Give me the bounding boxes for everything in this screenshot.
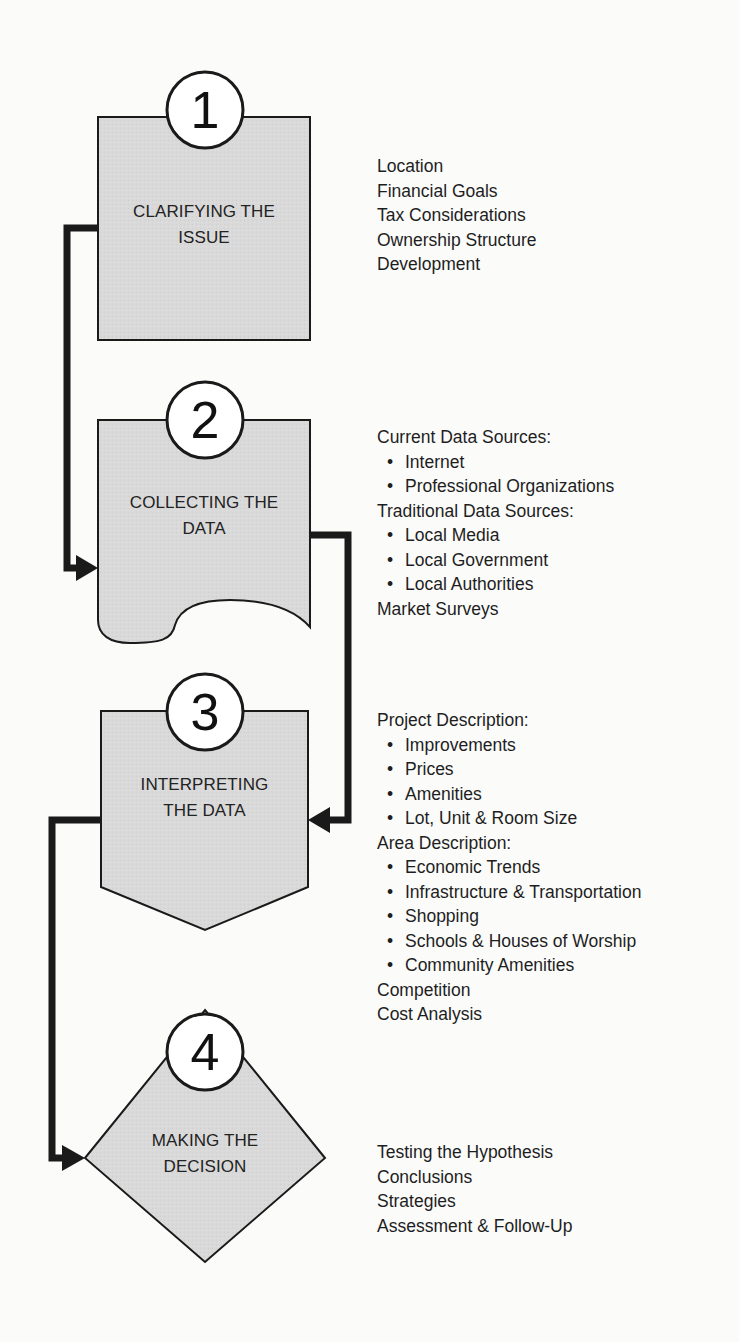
step3-number: 3 xyxy=(165,682,245,742)
note-text: Lot, Unit & Room Size xyxy=(405,808,577,828)
bullet-icon: • xyxy=(387,929,405,954)
step4-label-line1: MAKING THE xyxy=(105,1128,305,1154)
note-bullet-item: •Internet xyxy=(377,450,614,475)
step4-number: 4 xyxy=(165,1022,245,1082)
step1-label-line2: ISSUE xyxy=(98,225,310,251)
note-text: Professional Organizations xyxy=(405,476,614,496)
bullet-icon: • xyxy=(387,450,405,475)
step2-number: 2 xyxy=(165,390,245,450)
note-bullet-item: •Lot, Unit & Room Size xyxy=(377,806,641,831)
bullet-icon: • xyxy=(387,523,405,548)
step1-label: CLARIFYING THE ISSUE xyxy=(98,199,310,251)
note-text: Shopping xyxy=(405,906,479,926)
step4-notes: Testing the HypothesisConclusionsStrateg… xyxy=(377,1140,572,1238)
note-item: Competition xyxy=(377,978,641,1003)
bullet-icon: • xyxy=(387,757,405,782)
note-item: Testing the Hypothesis xyxy=(377,1140,572,1165)
note-item: Financial Goals xyxy=(377,179,537,204)
step3-label-line1: INTERPRETING xyxy=(101,772,308,798)
note-bullet-item: •Local Authorities xyxy=(377,572,614,597)
note-text: Schools & Houses of Worship xyxy=(405,931,636,951)
step2-label-line2: DATA xyxy=(98,516,310,542)
step4-label: MAKING THE DECISION xyxy=(105,1128,305,1180)
step2-label-line1: COLLECTING THE xyxy=(98,490,310,516)
step1-notes: LocationFinancial GoalsTax Consideration… xyxy=(377,154,537,277)
step3-label: INTERPRETING THE DATA xyxy=(101,772,308,824)
step2-label: COLLECTING THE DATA xyxy=(98,490,310,542)
arrowhead-icon xyxy=(76,555,98,581)
connector-step2-to-step3 xyxy=(308,535,348,833)
arrowhead-icon xyxy=(62,1145,85,1171)
step4-label-line2: DECISION xyxy=(105,1154,305,1180)
note-item: Tax Considerations xyxy=(377,203,537,228)
bullet-icon: • xyxy=(387,548,405,573)
note-text: Infrastructure & Transportation xyxy=(405,882,641,902)
note-text: Improvements xyxy=(405,735,516,755)
note-bullet-item: •Improvements xyxy=(377,733,641,758)
note-bullet-item: •Professional Organizations xyxy=(377,474,614,499)
step1-number: 1 xyxy=(165,80,245,140)
connector-step3-to-step4 xyxy=(52,820,101,1171)
note-bullet-item: •Community Amenities xyxy=(377,953,641,978)
note-bullet-item: •Economic Trends xyxy=(377,855,641,880)
step1-label-line1: CLARIFYING THE xyxy=(98,199,310,225)
note-item: Location xyxy=(377,154,537,179)
note-item: Market Surveys xyxy=(377,597,614,622)
note-text: Local Authorities xyxy=(405,574,533,594)
bullet-icon: • xyxy=(387,904,405,929)
note-bullet-item: •Shopping xyxy=(377,904,641,929)
note-item: Traditional Data Sources: xyxy=(377,499,614,524)
note-bullet-item: •Infrastructure & Transportation xyxy=(377,880,641,905)
arrowhead-icon xyxy=(308,807,330,833)
connector-step1-to-step2 xyxy=(67,228,98,581)
note-text: Prices xyxy=(405,759,454,779)
note-text: Local Government xyxy=(405,550,548,570)
note-item: Current Data Sources: xyxy=(377,425,614,450)
step3-label-line2: THE DATA xyxy=(101,798,308,824)
step2-notes: Current Data Sources:•Internet•Professio… xyxy=(377,425,614,621)
note-item: Strategies xyxy=(377,1189,572,1214)
note-text: Economic Trends xyxy=(405,857,540,877)
bullet-icon: • xyxy=(387,880,405,905)
bullet-icon: • xyxy=(387,733,405,758)
note-bullet-item: •Prices xyxy=(377,757,641,782)
note-text: Community Amenities xyxy=(405,955,574,975)
note-item: Area Description: xyxy=(377,831,641,856)
note-item: Development xyxy=(377,252,537,277)
bullet-icon: • xyxy=(387,572,405,597)
note-text: Amenities xyxy=(405,784,482,804)
note-bullet-item: •Schools & Houses of Worship xyxy=(377,929,641,954)
bullet-icon: • xyxy=(387,474,405,499)
note-bullet-item: •Local Government xyxy=(377,548,614,573)
note-item: Assessment & Follow-Up xyxy=(377,1214,572,1239)
step3-notes: Project Description:•Improvements•Prices… xyxy=(377,708,641,1027)
bullet-icon: • xyxy=(387,782,405,807)
note-bullet-item: •Local Media xyxy=(377,523,614,548)
note-item: Ownership Structure xyxy=(377,228,537,253)
bullet-icon: • xyxy=(387,806,405,831)
note-bullet-item: •Amenities xyxy=(377,782,641,807)
bullet-icon: • xyxy=(387,855,405,880)
note-text: Internet xyxy=(405,452,464,472)
note-item: Project Description: xyxy=(377,708,641,733)
bullet-icon: • xyxy=(387,953,405,978)
note-text: Local Media xyxy=(405,525,499,545)
note-item: Conclusions xyxy=(377,1165,572,1190)
note-item: Cost Analysis xyxy=(377,1002,641,1027)
